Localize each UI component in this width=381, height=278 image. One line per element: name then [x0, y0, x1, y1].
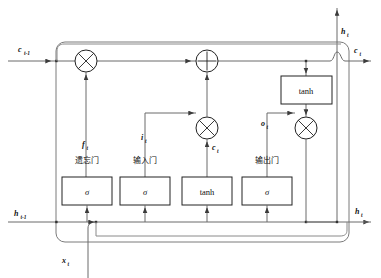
- label-c-prev: c t-1: [18, 45, 30, 56]
- input-gate-cn-label: 输入门: [133, 155, 157, 165]
- cell-tanh-branch-junction: [305, 60, 307, 62]
- label-h-prev-base: h: [14, 209, 19, 218]
- forget-gate-cn-label: 遗忘门: [75, 155, 99, 165]
- cell-tanh-box-label: tanh: [299, 86, 314, 96]
- label-h-out-base: h: [355, 207, 360, 216]
- label-h-out: h t: [355, 207, 363, 218]
- label-c-prev-base: c: [18, 45, 22, 54]
- label-c-out-sub: t: [360, 51, 362, 57]
- label-i-sub: t: [145, 138, 147, 144]
- label-i-base: i: [141, 133, 144, 142]
- h-top-junction: [336, 221, 338, 223]
- output-multiply: [295, 117, 317, 139]
- label-candidate: c t: [212, 143, 219, 154]
- lstm-diagram-svg: tanh σ σ tanh σ: [0, 0, 381, 278]
- label-f-base: f: [82, 140, 86, 149]
- label-candidate-sub: t: [217, 148, 219, 154]
- label-h-top: h t: [341, 27, 349, 38]
- label-c-out-base: c: [354, 46, 358, 55]
- label-c-out: c t: [354, 46, 362, 57]
- label-x-sub: t: [68, 261, 70, 267]
- label-o-base: o: [261, 119, 265, 128]
- label-f-sub: t: [87, 145, 89, 151]
- label-candidate-base: c: [212, 143, 216, 152]
- lstm-diagram-canvas: tanh σ σ tanh σ: [0, 0, 381, 278]
- recurrent-feedback-path: [96, 222, 347, 236]
- label-h-prev: h t-1: [14, 209, 27, 220]
- label-f: f t: [82, 140, 89, 151]
- label-o-sub: t: [267, 124, 269, 130]
- label-h-out-sub: t: [361, 212, 363, 218]
- sum-node: [196, 50, 218, 72]
- label-h-prev-sub: t-1: [21, 214, 27, 220]
- output-gate-cn-label: 输出门: [255, 155, 279, 165]
- output-gate-to-mult-path: [267, 113, 295, 177]
- h-prev-junction: [55, 221, 57, 223]
- label-h-top-base: h: [341, 27, 346, 36]
- x-input-path: [88, 222, 96, 278]
- input-gate-to-mult-path: [145, 113, 196, 177]
- label-x-base: x: [61, 256, 66, 265]
- label-h-top-sub: t: [347, 32, 349, 38]
- candidate-tanh-box-label: tanh: [200, 187, 215, 197]
- label-c-prev-sub: t-1: [24, 50, 30, 56]
- input-multiply: [196, 117, 218, 139]
- lstm-cell-boundary: [56, 42, 349, 242]
- forget-multiply: [75, 50, 97, 72]
- label-i: i t: [141, 133, 147, 144]
- label-x-input: x t: [61, 256, 70, 267]
